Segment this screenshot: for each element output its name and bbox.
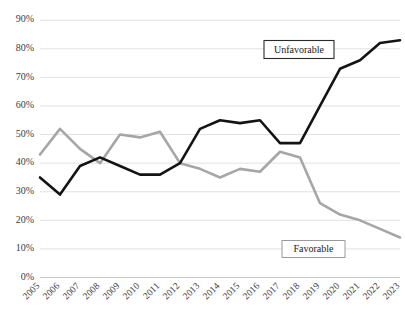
y-tick-0%: 0%: [21, 271, 34, 282]
x-tick-2008: 2008: [81, 281, 102, 302]
series-line-unfavorable: [40, 40, 400, 194]
x-tick-2020: 2020: [321, 281, 342, 302]
y-tick-60%: 60%: [16, 99, 34, 110]
y-axis-tick-labels: 0%10%20%30%40%50%60%70%80%90%: [16, 13, 34, 281]
x-tick-2015: 2015: [221, 281, 242, 302]
x-tick-2019: 2019: [301, 281, 322, 302]
chart-container: 0%10%20%30%40%50%60%70%80%90% 2005200620…: [0, 0, 405, 314]
x-tick-2005: 2005: [21, 281, 42, 302]
gridlines: [40, 20, 400, 277]
x-tick-2018: 2018: [281, 281, 302, 302]
annotation-favorable: Favorable: [282, 241, 345, 258]
annotation-favorable-label: Favorable: [294, 243, 335, 254]
annotation-unfavorable: Unfavorable: [264, 41, 334, 59]
annotation-unfavorable-label: Unfavorable: [274, 44, 325, 55]
x-tick-2016: 2016: [241, 281, 262, 302]
y-tick-40%: 40%: [16, 156, 34, 167]
line-chart: 0%10%20%30%40%50%60%70%80%90% 2005200620…: [0, 0, 405, 314]
x-tick-2010: 2010: [121, 281, 142, 302]
x-tick-2023: 2023: [381, 281, 402, 302]
x-tick-2013: 2013: [181, 281, 202, 302]
y-tick-30%: 30%: [16, 185, 34, 196]
x-tick-2009: 2009: [101, 281, 122, 302]
x-tick-2011: 2011: [141, 281, 161, 301]
x-tick-2007: 2007: [61, 281, 82, 302]
x-axis-tick-labels: 2005200620072008200920102011201220132014…: [21, 281, 402, 302]
x-tick-2014: 2014: [201, 281, 222, 302]
y-tick-80%: 80%: [16, 42, 34, 53]
x-tick-2021: 2021: [341, 281, 362, 302]
y-tick-10%: 10%: [16, 242, 34, 253]
x-tick-2022: 2022: [361, 281, 382, 302]
y-tick-20%: 20%: [16, 214, 34, 225]
y-tick-70%: 70%: [16, 71, 34, 82]
y-tick-50%: 50%: [16, 128, 34, 139]
x-tick-2017: 2017: [261, 281, 282, 302]
x-tick-2006: 2006: [41, 281, 62, 302]
x-tick-2012: 2012: [161, 281, 182, 302]
series-line-favorable: [40, 129, 400, 238]
y-tick-90%: 90%: [16, 13, 34, 24]
